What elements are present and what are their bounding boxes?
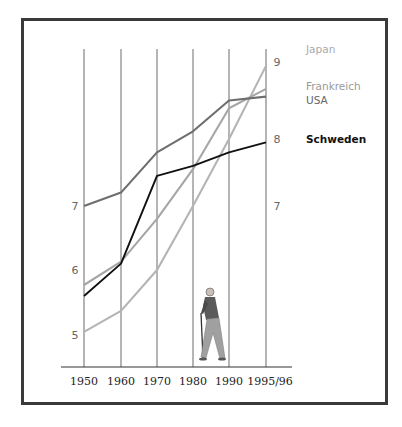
legend-item-usa: USA bbox=[306, 94, 329, 106]
shoe-right bbox=[218, 357, 226, 360]
x-tick-label: 1960 bbox=[107, 375, 135, 388]
y-tick-right-label: 9 bbox=[274, 56, 281, 69]
y-tick-right-label: 7 bbox=[274, 200, 281, 213]
x-tick-label: 1970 bbox=[143, 375, 171, 388]
series-line-usa bbox=[84, 97, 266, 206]
legend-item-frankreich: Frankreich bbox=[306, 80, 361, 92]
x-tick-label: 1980 bbox=[179, 375, 207, 388]
elderly-man-with-cane-illustration bbox=[199, 288, 226, 361]
series-lines bbox=[84, 66, 266, 332]
x-axis: 195019601970198019901995/96 bbox=[70, 375, 293, 388]
legend-item-schweden: Schweden bbox=[306, 133, 366, 145]
y-tick-right-label: 8 bbox=[274, 133, 281, 146]
y-tick-left-label: 5 bbox=[72, 329, 79, 342]
legend: JapanFrankreichUSASchweden bbox=[305, 43, 366, 145]
series-line-japan bbox=[84, 66, 266, 332]
head bbox=[206, 288, 214, 296]
y-axis-right: 789 bbox=[274, 56, 281, 213]
x-tick-label: 1995/96 bbox=[247, 375, 293, 388]
series-line-schweden bbox=[84, 142, 266, 296]
y-axis-left: 567 bbox=[72, 200, 79, 342]
y-tick-left-label: 6 bbox=[72, 264, 79, 277]
x-tick-label: 1950 bbox=[70, 375, 98, 388]
y-tick-left-label: 7 bbox=[72, 200, 79, 213]
line-chart: 567 789 195019601970198019901995/96 Japa… bbox=[0, 0, 402, 427]
legs bbox=[201, 318, 225, 359]
legend-item-japan: Japan bbox=[305, 43, 335, 55]
vertical-gridlines bbox=[84, 49, 266, 367]
x-tick-label: 1990 bbox=[215, 375, 243, 388]
shoe-left bbox=[199, 357, 207, 360]
